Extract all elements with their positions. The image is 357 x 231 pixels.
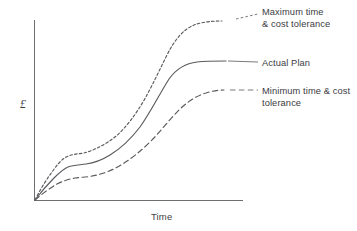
curve-maximum-tolerance: [35, 21, 222, 200]
chart-plot-area: [0, 0, 357, 231]
leader-line-maximum: [236, 14, 258, 19]
y-axis-label: £: [20, 97, 26, 112]
leader-line-actual: [228, 61, 258, 62]
curve-minimum-tolerance: [35, 90, 224, 200]
series-label-minimum-tolerance: Minimum time & cost tolerance: [262, 85, 357, 110]
curve-actual-plan: [35, 61, 226, 200]
series-label-actual-plan: Actual Plan: [262, 57, 357, 69]
chart-figure: £ Time Maximum time & cost tolerance Act…: [0, 0, 357, 231]
series-label-maximum-tolerance: Maximum time & cost tolerance: [262, 6, 357, 31]
x-axis-label: Time: [151, 211, 172, 222]
